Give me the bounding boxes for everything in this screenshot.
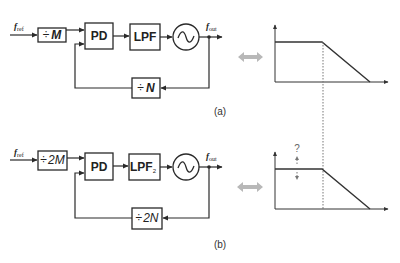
pre-divider-block-a: ÷M	[38, 28, 66, 42]
caption-b: (b)	[214, 239, 226, 250]
fref-label-a: fref	[14, 21, 24, 32]
svg-text:PD: PD	[91, 160, 108, 174]
caption-a: (a)	[214, 106, 226, 117]
frequency-response-plot-b: ?	[275, 143, 388, 209]
svg-text:PD: PD	[91, 29, 108, 43]
pll-diagram-b: fref ÷2M PD LPF2 fout ÷2N (b)	[10, 147, 226, 250]
svg-text:÷2N: ÷2N	[136, 211, 159, 225]
feedback-divider-block-b: ÷2N	[132, 208, 162, 229]
equivalence-arrow-b-icon	[237, 182, 263, 192]
feedback-divider-block-a: ÷N	[132, 78, 160, 98]
phase-detector-block-b: PD	[85, 153, 113, 180]
equivalence-arrow-a-icon	[238, 52, 263, 62]
feedback-wire-left-a	[75, 44, 132, 88]
svg-text:LPF2: LPF2	[130, 160, 157, 174]
pll-comparison-figure: fref ÷M PD LPF fout	[0, 0, 400, 263]
svg-text:÷M: ÷M	[43, 28, 63, 42]
vco-block-b	[173, 154, 199, 180]
fout-label-b: fout	[206, 151, 217, 162]
frequency-response-plot-a	[275, 25, 388, 82]
phase-detector-block-a: PD	[85, 23, 113, 49]
fref-label-b: fref	[14, 147, 24, 158]
uncertainty-label: ?	[294, 143, 300, 154]
svg-text:÷2M: ÷2M	[40, 153, 64, 167]
fout-label-a: fout	[206, 21, 217, 32]
svg-text:÷N: ÷N	[137, 81, 155, 95]
pre-divider-block-b: ÷2M	[38, 151, 67, 170]
vco-block-a	[173, 24, 199, 50]
loop-filter-block-a: LPF	[130, 24, 160, 50]
pll-diagram-a: fref ÷M PD LPF fout	[10, 21, 226, 117]
loop-filter-block-b: LPF2	[129, 154, 160, 180]
svg-text:LPF: LPF	[134, 30, 157, 44]
